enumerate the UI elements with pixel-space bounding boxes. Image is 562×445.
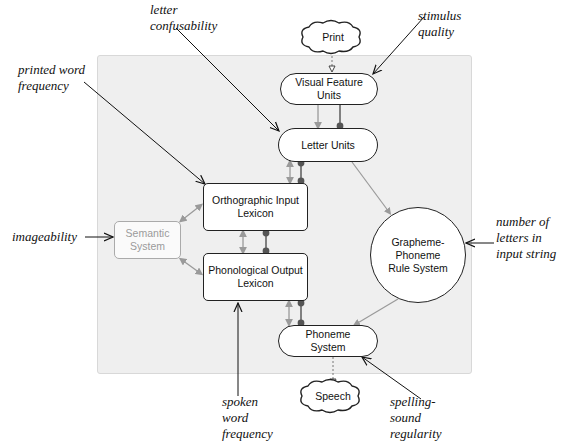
annotation-text: number of	[496, 214, 556, 230]
annotation-text: word	[222, 410, 273, 426]
gpc-to-phoneme-arrow	[356, 299, 398, 324]
letter-confusability-arrow	[176, 28, 279, 131]
annotation-text: input string	[496, 246, 556, 262]
semantic-pol-link	[182, 260, 200, 273]
node-label: Phonological Output	[208, 264, 303, 277]
annotation-spelling-sound-regularity: spelling-soundregularity	[390, 394, 442, 442]
print-input: Print	[304, 28, 362, 46]
annotation-text: stimulus	[418, 8, 461, 24]
letter-units-node: Letter Units	[278, 128, 378, 162]
node-label: Semantic	[126, 227, 170, 240]
annotation-text: frequency	[18, 78, 85, 94]
node-label: Phoneme	[388, 249, 448, 262]
visual-feature-units-node: Visual FeatureUnits	[280, 73, 378, 105]
letter-to-gpc-arrow	[352, 162, 389, 212]
node-label: Phoneme	[306, 328, 351, 341]
node-label: Lexicon	[212, 207, 299, 220]
node-label: Units	[295, 89, 363, 102]
speech-output: Speech	[303, 387, 363, 405]
node-label: Visual Feature	[295, 76, 363, 89]
phonological-output-lexicon-node: Phonological OutputLexicon	[203, 253, 308, 301]
node-label: Rule System	[388, 262, 448, 275]
annotation-text: imageability	[12, 229, 77, 245]
annotation-text: spelling-	[390, 394, 442, 410]
spelling-sound-regularity-arrow	[362, 357, 421, 399]
node-label: Grapheme-	[388, 236, 448, 249]
node-label: Lexicon	[208, 277, 303, 290]
annotation-text: spoken	[222, 394, 273, 410]
stimulus-quality-arrow	[373, 17, 424, 74]
annotation-spoken-word-frequency: spokenwordfrequency	[222, 394, 273, 442]
annotation-text: printed word	[18, 62, 85, 78]
annotation-printed-word-frequency: printed wordfrequency	[18, 62, 85, 94]
orthographic-input-lexicon-node: Orthographic InputLexicon	[203, 183, 308, 231]
gpc-rule-system-node: Grapheme-PhonemeRule System	[370, 207, 466, 303]
annotation-letter-confusability: letterconfusability	[150, 2, 217, 34]
annotation-number-of-letters: number ofletters ininput string	[496, 214, 556, 262]
annotation-text: letter	[150, 2, 217, 18]
node-label: Orthographic Input	[212, 194, 299, 207]
node-label: System	[126, 240, 170, 253]
annotation-text: frequency	[222, 426, 273, 442]
annotation-text: quality	[418, 24, 461, 40]
phoneme-system-node: PhonemeSystem	[278, 325, 378, 357]
node-label: System	[306, 341, 351, 354]
annotation-text: sound	[390, 410, 442, 426]
annotation-text: confusability	[150, 18, 217, 34]
annotation-imageability: imageability	[12, 229, 77, 245]
semantic-system-node: SemanticSystem	[114, 221, 181, 259]
annotation-text: regularity	[390, 426, 442, 442]
annotation-stimulus-quality: stimulusquality	[418, 8, 461, 40]
printed-word-frequency-arrow	[84, 82, 205, 184]
semantic-oil-link	[182, 206, 200, 220]
annotation-text: letters in	[496, 230, 556, 246]
